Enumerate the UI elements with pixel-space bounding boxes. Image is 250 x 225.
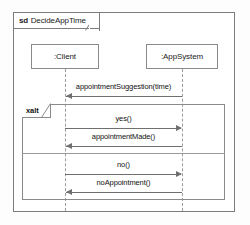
frame-tag-notch-icon [85,13,101,31]
message-label-yes: yes() [65,114,182,123]
message-line-yes [65,128,181,129]
message-label-appointment-suggestion: appointmentSuggestion(time) [65,82,182,91]
frame-keyword: sd [19,16,28,25]
combined-fragment-operator-label: xalt [26,106,39,115]
message-line-no [65,174,181,175]
message-arrowhead-yes [176,125,182,131]
lifeline-label-appsystem: :AppSystem [161,52,203,61]
message-line-no-appointment [66,192,182,193]
message-label-no: no() [65,160,182,169]
message-arrowhead-no [176,171,182,177]
lifeline-head-client[interactable]: :Client [31,44,99,69]
message-line-appointment-made [66,146,182,147]
message-label-no-appointment: noAppointment() [65,178,182,187]
lifeline-label-client: :Client [54,52,76,61]
message-arrowhead-appointment-suggestion [66,93,72,99]
frame-name: DecideAppTime [31,16,86,25]
message-arrowhead-appointment-made [66,143,72,149]
message-arrowhead-no-appointment [66,189,72,195]
message-label-appointment-made: appointmentMade() [65,132,182,141]
combined-fragment-divider [22,153,225,154]
alt-tag-notch-icon [41,103,51,118]
message-line-appointment-suggestion [66,96,182,97]
lifeline-head-appsystem[interactable]: :AppSystem [146,44,218,69]
sequence-diagram-canvas: sd DecideAppTime :Client :AppSystem appo… [0,0,250,225]
frame-label-tag: sd DecideAppTime [13,12,100,29]
combined-fragment-operator-tag: xalt [22,104,51,118]
